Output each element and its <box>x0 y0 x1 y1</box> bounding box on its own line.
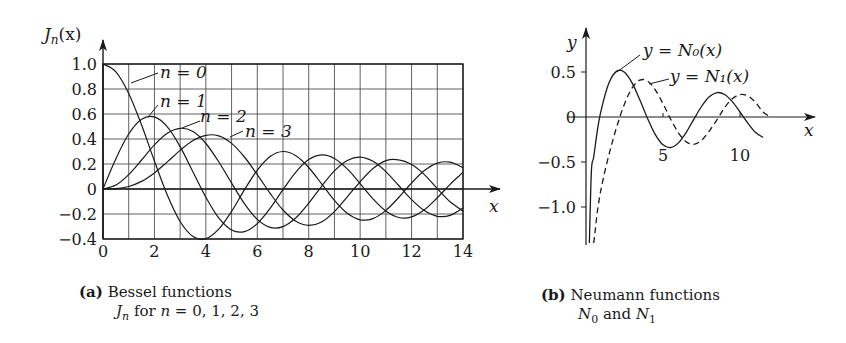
y-tick-label: 0.5 <box>551 63 576 82</box>
y-tick-label: 0.4 <box>72 130 97 149</box>
label-N1: y = N₁(x) <box>669 66 749 86</box>
x-tick-label: 5 <box>658 146 668 165</box>
neumann-x-axis-label: x <box>804 120 814 140</box>
neumann-y-axis-label: y <box>566 32 577 52</box>
neumann-plot: 0.50−0.5−1.0510 y = N₀(x) y = N₁(x) y x <box>537 28 815 245</box>
neumann-axes <box>568 28 815 245</box>
y-tick-label: 0.6 <box>72 105 97 124</box>
bessel-plot: 1.00.80.60.40.20−0.2−0.402468101214 n = … <box>41 24 500 261</box>
y-tick-label: 0 <box>566 108 576 127</box>
x-tick-label: 10 <box>350 242 370 261</box>
caption-b-tag: (b) <box>541 286 566 304</box>
bessel-curve-labels: n = 0 n = 1 n = 2 n = 3 <box>131 62 292 141</box>
x-tick-label: 0 <box>98 242 108 261</box>
caption-a-tag: (a) <box>79 283 103 301</box>
x-tick-label: 8 <box>304 242 314 261</box>
bessel-y-axis-label: Jn(x) <box>41 24 81 47</box>
bessel-x-axis-label: x <box>489 196 499 216</box>
y-tick-label: 1.0 <box>72 55 97 74</box>
bessel-tick-labels: 1.00.80.60.40.20−0.2−0.402468101214 <box>58 55 473 261</box>
y-tick-label: −0.4 <box>58 230 97 249</box>
x-tick-label: 4 <box>201 242 211 261</box>
x-tick-label: 10 <box>730 146 750 165</box>
y-tick-label: −0.5 <box>537 153 576 172</box>
label-n2: n = 2 <box>200 106 247 126</box>
label-n3: n = 3 <box>245 121 292 141</box>
x-tick-label: 6 <box>252 242 262 261</box>
y-tick-label: 0 <box>87 180 97 199</box>
caption-a-line1: Bessel functions <box>108 283 232 301</box>
y-tick-label: 0.8 <box>72 80 97 99</box>
caption-b-line1: Neumann functions <box>570 286 719 304</box>
label-N0: y = N₀(x) <box>642 40 722 60</box>
caption-b: (b) Neumann functions N0 and N1 <box>541 286 720 329</box>
label-n0: n = 0 <box>160 62 207 82</box>
x-tick-label: 14 <box>453 242 473 261</box>
neumann-curve-labels: y = N₀(x) y = N₁(x) <box>617 40 749 86</box>
y-tick-label: 0.2 <box>72 155 97 174</box>
neumann-tick-labels: 0.50−0.5−1.0510 <box>537 63 750 217</box>
y-tick-label: −1.0 <box>537 198 576 217</box>
caption-a: (a) Bessel functions Jn for n = 0, 1, 2,… <box>79 283 259 326</box>
x-tick-label: 12 <box>401 242 421 261</box>
y-tick-label: −0.2 <box>58 205 97 224</box>
x-tick-label: 2 <box>149 242 159 261</box>
